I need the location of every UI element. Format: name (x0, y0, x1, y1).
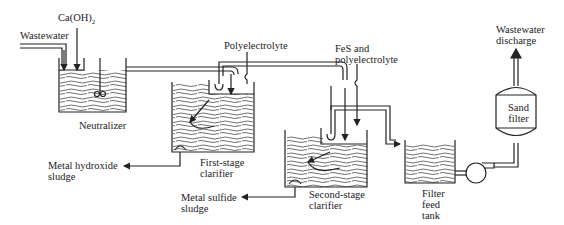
sulfide-sludge-label: Metal sulfidesludge (181, 192, 237, 214)
second-clarifier-label: Second-stageclarifier (309, 189, 365, 211)
hydroxide-sludge-line (124, 152, 180, 166)
filter-feed-tank-label: Filterfeedtank (422, 188, 445, 221)
neutralizer-label: Neutralizer (79, 120, 126, 131)
process-flow-diagram: Ca(OH)2 Wastewater Neutralizer Polyelect… (0, 0, 564, 225)
fes-feed-line (355, 64, 357, 125)
wastewater-input-label: Wastewater (20, 30, 69, 41)
second-stage-clarifier (285, 86, 367, 187)
neutralizer-tank (59, 58, 126, 112)
pump (466, 163, 494, 183)
filter-feed-tank (405, 140, 455, 183)
discharge-label: Wastewaterdischarge (496, 24, 545, 46)
polyelectrolyte-label: Polyelectrolyte (224, 40, 288, 51)
fes-polyelectrolyte-label: FeS andpolyelectrolyte (335, 43, 398, 65)
hydroxide-sludge-label: Metal hydroxidesludge (48, 160, 118, 182)
sulfide-sludge-line (242, 187, 295, 197)
first-stage-clarifier (172, 74, 254, 152)
pipe-pump-to-filter (494, 143, 514, 163)
lime-label: Ca(OH)2 (58, 12, 95, 28)
diagram-drawing (0, 0, 564, 225)
sand-filter-label: Sandfilter (508, 102, 529, 124)
first-clarifier-label: First-stageclarifier (200, 157, 244, 179)
